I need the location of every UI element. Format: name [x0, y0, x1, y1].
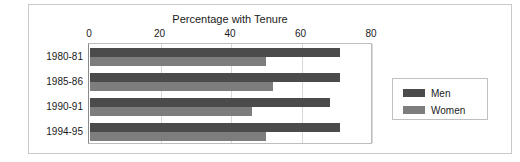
y-tick-label: 1985-86: [46, 75, 83, 86]
y-axis: 1980-811985-861990-911994-95: [28, 43, 86, 144]
legend-swatch-icon: [403, 89, 425, 97]
bar-group: [89, 48, 371, 66]
chart-legend: MenWomen: [392, 78, 488, 120]
y-tick-label: 1994-95: [46, 126, 83, 137]
bar-men-1985-86: [90, 73, 340, 82]
x-tick-label: 40: [224, 28, 235, 39]
x-tick-label: 60: [295, 28, 306, 39]
bar-women-1990-91: [90, 107, 252, 116]
bar-group: [89, 73, 371, 91]
x-tick-label: 80: [365, 28, 376, 39]
x-tick-label: 0: [86, 28, 92, 39]
bar-men-1994-95: [90, 123, 340, 132]
chart-title: Percentage with Tenure: [88, 13, 372, 25]
bar-group: [89, 123, 371, 141]
x-axis: 020406080: [88, 28, 372, 41]
bar-men-1980-81: [90, 48, 340, 57]
bar-women-1985-86: [90, 82, 273, 91]
legend-label: Men: [431, 88, 450, 99]
bar-men-1990-91: [90, 98, 330, 107]
chart-figure: Percentage with Tenure 020406080 1980-81…: [0, 0, 520, 162]
x-tick-label: 20: [154, 28, 165, 39]
legend-item-men[interactable]: Men: [403, 87, 450, 99]
legend-label: Women: [431, 105, 465, 116]
y-tick-label: 1980-81: [46, 50, 83, 61]
legend-swatch-icon: [403, 106, 425, 114]
legend-item-women[interactable]: Women: [403, 104, 465, 116]
bar-group: [89, 98, 371, 116]
plot-area: [88, 43, 372, 144]
y-tick-label: 1990-91: [46, 101, 83, 112]
gridline: [372, 44, 373, 143]
bar-women-1980-81: [90, 57, 266, 66]
bar-women-1994-95: [90, 132, 266, 141]
